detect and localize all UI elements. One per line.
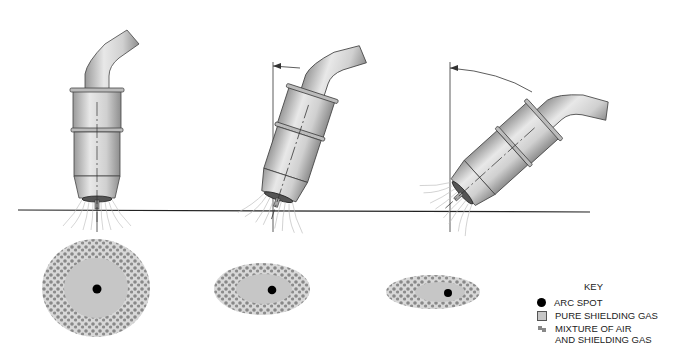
key-item-mixture: MIXTURE OF AIR AND SHIELDING GAS xyxy=(537,323,652,345)
key-item-arc-spot: ARC SPOT xyxy=(537,297,603,308)
gas-pattern-elongated xyxy=(386,275,480,309)
gas-pattern-circular xyxy=(42,239,150,337)
pure-gas-icon xyxy=(537,311,547,321)
arc-spot-icon xyxy=(537,298,546,307)
torch-tilted-icon xyxy=(237,26,371,240)
key-item-pure-gas: PURE SHIELDING GAS xyxy=(537,310,658,321)
gas-pattern-oval xyxy=(214,263,310,315)
torch-steep-icon xyxy=(417,54,616,244)
torch-vertical-icon xyxy=(63,30,139,230)
mixture-icon xyxy=(537,324,547,334)
key-title: KEY xyxy=(584,281,603,292)
work-surface-line xyxy=(18,210,590,212)
